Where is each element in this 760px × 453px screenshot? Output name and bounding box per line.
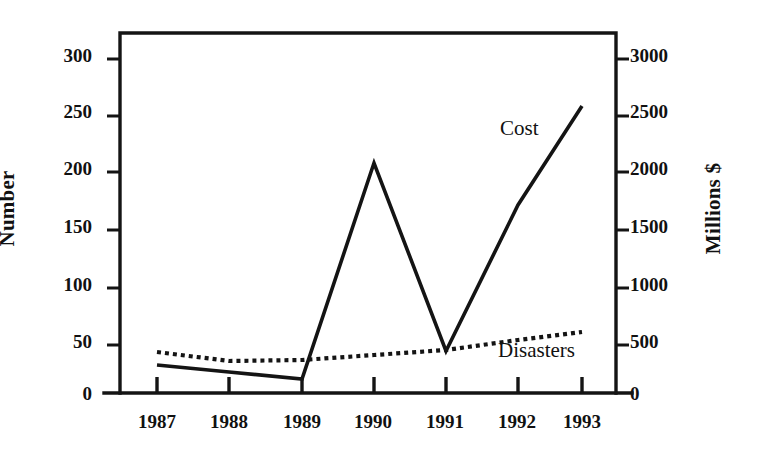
y-axis-right-ticks (616, 59, 629, 345)
x-axis-ticks (157, 377, 582, 393)
y-axis-left-ticks (107, 59, 120, 345)
series-line-disasters (157, 332, 582, 361)
chart-figure: Number Millions $ 300 250 200 150 100 50… (0, 0, 760, 453)
plot-area (0, 0, 760, 453)
axis-frame (104, 33, 632, 393)
